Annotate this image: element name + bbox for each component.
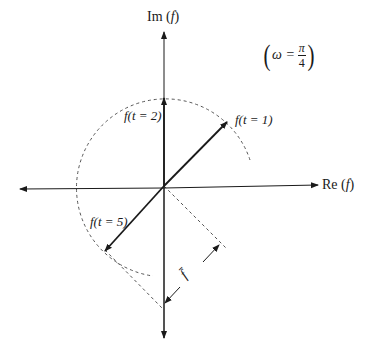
magnitude-dimension-arrow <box>165 245 219 303</box>
real-axis <box>20 185 318 189</box>
im-suffix: ) <box>175 9 180 24</box>
vector-f-t1 <box>164 122 227 186</box>
re-suffix: ) <box>350 177 355 192</box>
label-f-t2: f(t = 2) <box>124 109 162 122</box>
im-prefix: Im ( <box>147 9 171 24</box>
label-f-t5: f(t = 5) <box>90 215 128 228</box>
label-f-t1: f(t = 1) <box>235 113 273 126</box>
omega-annotation: ( ω = π 4 ) <box>262 40 316 70</box>
imaginary-axis-label: Im (f) <box>147 10 179 24</box>
pi-over-4-fraction: π 4 <box>298 42 306 69</box>
open-paren: ( <box>264 40 271 70</box>
re-prefix: Re ( <box>322 177 346 192</box>
projection-lines <box>105 186 226 308</box>
omega-symbol: ω = <box>272 47 295 63</box>
fraction-denominator: 4 <box>299 56 305 69</box>
fraction-numerator: π <box>298 42 306 56</box>
close-paren: ) <box>307 40 314 70</box>
real-axis-label: Re (f) <box>322 178 354 192</box>
